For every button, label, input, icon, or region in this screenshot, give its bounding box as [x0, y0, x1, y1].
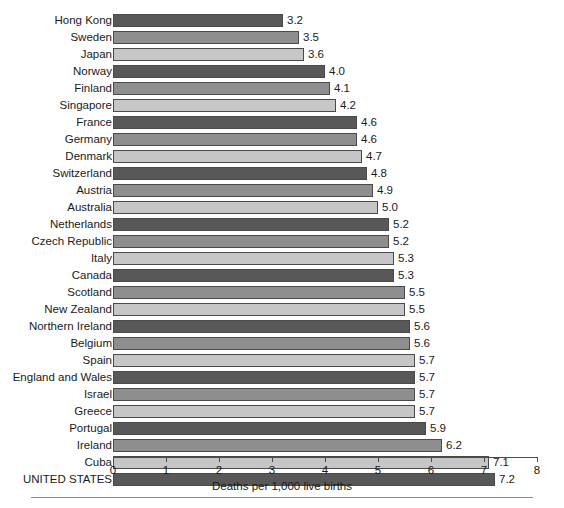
category-label: Belgium: [70, 337, 112, 350]
bar-value-label: 5.5: [409, 286, 425, 299]
bar-rows: Hong Kong3.2Sweden3.5Japan3.6Norway4.0Fi…: [0, 14, 564, 490]
bar: [113, 286, 405, 299]
category-label: Scotland: [67, 286, 112, 299]
bar-value-label: 5.3: [398, 269, 414, 282]
bar: [113, 99, 336, 112]
bar: [113, 405, 415, 418]
chart-row: Scotland5.5: [0, 286, 564, 303]
category-label: Italy: [91, 252, 112, 265]
category-label: Portugal: [69, 422, 112, 435]
chart-row: Japan3.6: [0, 48, 564, 65]
bar: [113, 252, 394, 265]
chart-row: Sweden3.5: [0, 31, 564, 48]
bar-value-label: 7.2: [499, 473, 515, 486]
bar-value-label: 4.7: [366, 150, 382, 163]
chart-row: Ireland6.2: [0, 439, 564, 456]
bar-value-label: 6.2: [446, 439, 462, 452]
chart-row: Finland4.1: [0, 82, 564, 99]
bar: [113, 303, 405, 316]
bar: [113, 371, 415, 384]
bar: [113, 133, 357, 146]
category-label: England and Wales: [13, 371, 112, 384]
bar: [113, 439, 442, 452]
bar: [113, 473, 495, 486]
category-label: Austria: [76, 184, 112, 197]
category-label: New Zealand: [44, 303, 112, 316]
bar: [113, 184, 373, 197]
category-label: Cuba: [85, 456, 113, 469]
bar: [113, 320, 410, 333]
bar-value-label: 4.0: [329, 65, 345, 78]
bar-value-label: 5.0: [382, 201, 398, 214]
bar-value-label: 3.5: [303, 31, 319, 44]
chart-row: Canada5.3: [0, 269, 564, 286]
category-label: Ireland: [77, 439, 112, 452]
chart-row: Germany4.6: [0, 133, 564, 150]
bar: [113, 150, 362, 163]
chart-row: Czech Republic5.2: [0, 235, 564, 252]
category-label: Switzerland: [53, 167, 112, 180]
bar: [113, 235, 389, 248]
chart-row: New Zealand5.5: [0, 303, 564, 320]
bar: [113, 388, 415, 401]
bar-value-label: 4.2: [340, 99, 356, 112]
category-label: Denmark: [65, 150, 112, 163]
bar-value-label: 5.7: [419, 354, 435, 367]
chart-row: Northern Ireland5.6: [0, 320, 564, 337]
bar: [113, 337, 410, 350]
bar-value-label: 4.1: [334, 82, 350, 95]
bar-value-label: 5.2: [393, 235, 409, 248]
category-label: Singapore: [60, 99, 112, 112]
chart-row: Israel5.7: [0, 388, 564, 405]
bar-value-label: 5.7: [419, 371, 435, 384]
chart-row: Italy5.3: [0, 252, 564, 269]
bar: [113, 167, 367, 180]
bar-value-label: 4.6: [361, 133, 377, 146]
category-label: Finland: [74, 82, 112, 95]
category-label: Canada: [72, 269, 112, 282]
chart-row: Belgium5.6: [0, 337, 564, 354]
chart-row: Greece5.7: [0, 405, 564, 422]
bar-value-label: 7.1: [493, 456, 509, 469]
bar: [113, 65, 325, 78]
bar-value-label: 3.2: [287, 14, 303, 27]
category-label: France: [76, 116, 112, 129]
bar-value-label: 5.3: [398, 252, 414, 265]
bar-value-label: 5.5: [409, 303, 425, 316]
chart-row: Australia5.0: [0, 201, 564, 218]
bar-value-label: 4.8: [371, 167, 387, 180]
bar: [113, 218, 389, 231]
chart-row: Singapore4.2: [0, 99, 564, 116]
category-label: Sweden: [70, 31, 112, 44]
chart-row: Denmark4.7: [0, 150, 564, 167]
chart-row: Netherlands5.2: [0, 218, 564, 235]
chart-row: Spain5.7: [0, 354, 564, 371]
chart-row: England and Wales5.7: [0, 371, 564, 388]
chart-row: France4.6: [0, 116, 564, 133]
bar: [113, 456, 489, 469]
bar-value-label: 5.7: [419, 388, 435, 401]
category-label: Spain: [83, 354, 112, 367]
category-label: Australia: [67, 201, 112, 214]
chart-row: Austria4.9: [0, 184, 564, 201]
category-label: Norway: [73, 65, 112, 78]
bar: [113, 31, 299, 44]
chart-row: Cuba7.1: [0, 456, 564, 473]
category-label: Czech Republic: [31, 235, 112, 248]
category-label: Greece: [74, 405, 112, 418]
category-label: Israel: [84, 388, 112, 401]
bar-value-label: 4.9: [377, 184, 393, 197]
bar: [113, 422, 426, 435]
category-label: Hong Kong: [54, 14, 112, 27]
bar: [113, 14, 283, 27]
footer-rule: [31, 497, 533, 498]
chart-row: Hong Kong3.2: [0, 14, 564, 31]
bar: [113, 269, 394, 282]
bar: [113, 48, 304, 61]
chart-row: Portugal5.9: [0, 422, 564, 439]
bar: [113, 201, 378, 214]
chart-row: Switzerland4.8: [0, 167, 564, 184]
category-label: UNITED STATES: [23, 473, 112, 486]
bar-value-label: 4.6: [361, 116, 377, 129]
bar-value-label: 5.6: [414, 337, 430, 350]
